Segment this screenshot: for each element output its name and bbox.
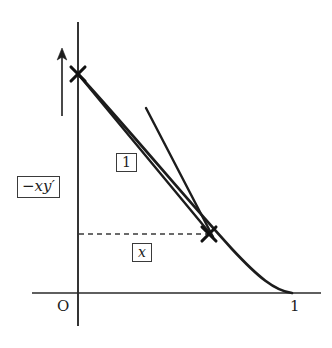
vertical-quantity-label: −xy′ bbox=[17, 176, 60, 198]
rise-label: 1 bbox=[116, 153, 137, 172]
run-label: x bbox=[132, 243, 152, 262]
secant-line bbox=[78, 74, 213, 237]
figure-canvas bbox=[0, 0, 332, 348]
math-figure: −xy′ 1 x O 1 bbox=[0, 0, 332, 348]
origin-label: O bbox=[57, 299, 69, 314]
x-axis-tick-label: 1 bbox=[290, 299, 300, 314]
up-arrow-icon bbox=[57, 48, 67, 116]
tangent-segment bbox=[146, 108, 213, 237]
